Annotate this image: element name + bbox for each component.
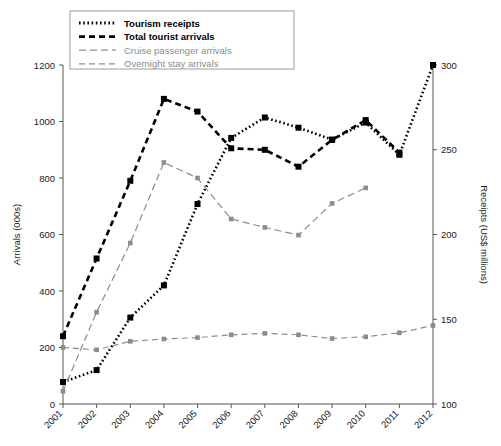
data-point-marker [195,335,200,340]
x-tick-label: 2001 [42,408,65,431]
x-tick-label: 2007 [244,408,267,431]
data-point-marker [296,125,302,131]
x-tick-label: 2010 [344,408,367,431]
data-point-marker [61,389,66,394]
y-left-tick-label: 800 [39,173,55,184]
data-point-marker [127,178,133,184]
data-point-marker [61,345,66,350]
data-point-marker [396,150,402,156]
data-point-marker [195,176,200,181]
legend: Tourism receiptsTotal tourist arrivalsCr… [70,11,294,69]
x-tick-label: 2004 [143,408,166,431]
x-tick-label: 2008 [277,408,300,431]
x-tick-label: 2002 [75,408,98,431]
data-point-marker [195,109,201,115]
data-point-marker [195,201,201,207]
data-point-marker [60,379,66,385]
data-point-marker [296,333,301,338]
data-point-marker [296,233,301,238]
y-right-tick-label: 300 [441,60,457,71]
y-axis-right-title: Receipts (US$ millions) [479,185,490,284]
data-point-marker [94,256,100,262]
series-line [63,326,433,350]
x-tick-label: 2006 [210,408,233,431]
x-tick-label: 2009 [311,408,334,431]
figure-caption [8,436,428,446]
data-point-marker [94,310,99,315]
x-tick-label: 2005 [176,408,199,431]
data-point-marker [161,282,167,288]
data-point-marker [60,333,66,339]
y-right-tick-label: 100 [441,399,457,410]
y-left-tick-label: 1200 [34,60,55,71]
data-point-marker [363,335,368,340]
data-point-marker [94,367,100,373]
y-right-tick-label: 250 [441,144,457,155]
legend-label-2: Total tourist arrivals [124,31,215,42]
y-left-tick-label: 1000 [34,116,55,127]
data-point-marker [127,315,133,321]
data-point-marker [330,201,335,206]
data-point-marker [397,331,402,336]
series-cruise-passenger-arrivals [61,160,368,393]
y-left-tick-label: 200 [39,342,55,353]
data-point-marker [229,217,234,222]
data-point-marker [329,137,335,143]
data-point-marker [262,115,268,121]
legend-label-1: Tourism receipts [124,18,200,29]
x-tick-label: 2012 [412,408,435,431]
data-point-marker [330,336,335,341]
figure-container: 0200400600800100012001001502002503002001… [0,0,501,446]
data-point-marker [161,96,167,102]
data-point-marker [263,331,268,336]
data-point-marker [262,147,268,153]
y-right-tick-label: 150 [441,314,457,325]
y-right-tick-label: 200 [441,229,457,240]
series-overnight-stay-arrivals [61,323,436,352]
legend-label-3: Cruise passenger arrivals [124,45,232,56]
data-point-marker [228,145,234,151]
data-point-marker [128,339,133,344]
data-point-marker [228,135,234,141]
series-line [63,163,366,392]
data-point-marker [363,117,369,123]
data-point-marker [430,62,436,68]
data-point-marker [94,348,99,353]
x-tick-label: 2003 [109,408,132,431]
y-left-tick-label: 0 [50,399,55,410]
data-point-marker [128,241,133,246]
data-point-marker [431,323,436,328]
y-left-tick-label: 400 [39,286,55,297]
legend-label-4: Overnight stay arrivals [124,58,219,69]
y-left-tick-label: 600 [39,229,55,240]
data-point-marker [296,164,302,170]
y-axis-left-title: Arrivals (000s) [11,204,22,265]
data-point-marker [363,186,368,191]
data-point-marker [162,337,167,342]
line-chart: 0200400600800100012001001502002503002001… [0,0,501,446]
data-point-marker [263,225,268,230]
data-point-marker [229,333,234,338]
data-point-marker [162,160,167,165]
x-tick-label: 2011 [379,408,401,430]
